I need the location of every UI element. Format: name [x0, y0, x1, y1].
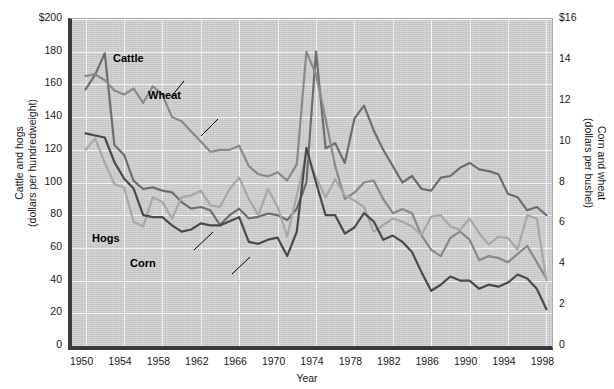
- chart-figure: $200180160140120100806040200 $1614121086…: [0, 0, 614, 389]
- plot-area: [68, 18, 553, 350]
- leader-line-corn: [232, 257, 250, 274]
- y-axis-right-tick-label: $16: [559, 11, 599, 23]
- series-label-wheat: Wheat: [148, 89, 181, 101]
- leader-line-wheat: [201, 119, 218, 136]
- y-axis-left-title-line2: (dollars per hundredweight): [26, 88, 39, 238]
- y-axis-left-tick-label: 180: [22, 44, 62, 56]
- leader-line-hogs: [194, 232, 213, 250]
- y-axis-left-title-line1: Cattle and hogs: [13, 88, 26, 238]
- y-axis-right-tick-label: 0: [559, 338, 599, 350]
- series-label-corn: Corn: [130, 257, 156, 269]
- y-axis-left-tick-label: $200: [22, 11, 62, 23]
- y-axis-left-tick-label: 40: [22, 273, 62, 285]
- y-axis-left-title: Cattle and hogs (dollars per hundredweig…: [13, 88, 39, 238]
- x-axis-title: Year: [0, 372, 614, 384]
- y-axis-right-title-line2: (dollars per bushel): [582, 88, 595, 238]
- y-axis-right-title-line1: Corn and wheat: [595, 88, 608, 238]
- annotation-leaders: [72, 19, 553, 350]
- x-axis-tick-label: 1998: [519, 355, 565, 367]
- y-axis-right-tick-label: 2: [559, 297, 599, 309]
- y-axis-right-title: Corn and wheat (dollars per bushel): [582, 88, 608, 238]
- y-axis-right-tick-label: 4: [559, 256, 599, 268]
- y-axis-left-tick-label: 60: [22, 240, 62, 252]
- series-label-hogs: Hogs: [92, 232, 120, 244]
- series-label-cattle: Cattle: [113, 52, 144, 64]
- y-axis-left-tick-label: 20: [22, 305, 62, 317]
- y-axis-left-tick-label: 0: [22, 338, 62, 350]
- y-axis-left-tick-label: 160: [22, 76, 62, 88]
- y-axis-right-tick-label: 14: [559, 52, 599, 64]
